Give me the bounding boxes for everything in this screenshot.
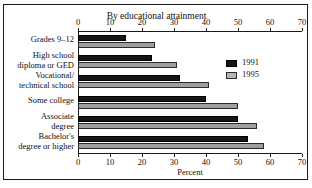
x-axis-tick-label: 70: [298, 157, 307, 167]
x-axis-tick-label: 10: [106, 17, 115, 27]
legend-label: 1995: [242, 69, 259, 79]
category-label: High school diploma or GED: [17, 51, 74, 70]
x-axis-tick-top: [238, 28, 239, 31]
category-label: Some college: [28, 96, 74, 106]
x-axis-tick-top: [302, 28, 303, 31]
x-axis-tick-label: 0: [76, 157, 80, 167]
x-axis-tick-top: [174, 28, 175, 31]
plot-area: Percent 001010202030304040505060607070: [78, 31, 302, 153]
x-axis-tick-label: 0: [76, 17, 80, 27]
x-axis-tick-label: 10: [106, 157, 115, 167]
bar-1995: [78, 82, 209, 88]
category-label: Associate degree: [41, 112, 74, 131]
bar-1995: [78, 103, 238, 109]
chart-title: By educational attainment: [4, 11, 309, 21]
legend-swatch-icon: [226, 72, 237, 79]
x-axis-label: Percent: [78, 167, 302, 177]
bar-1995: [78, 62, 177, 68]
bar-1995: [78, 123, 257, 129]
category-label: Bachelor's degree or higher: [18, 132, 74, 151]
x-axis-tick-top: [142, 28, 143, 31]
bar-1995: [78, 42, 155, 48]
bar-1991: [78, 35, 126, 41]
legend-item: 1995: [226, 70, 286, 82]
category-label: Grades 9–12: [31, 35, 74, 45]
bottom-axis-line: [78, 153, 302, 154]
x-axis-tick-label: 30: [170, 17, 179, 27]
chart-screenshot: By educational attainment Grades 9–12Hig…: [0, 0, 312, 188]
bar-1991: [78, 75, 180, 81]
chart-legend: 19911995: [226, 58, 286, 82]
x-axis-tick-label: 40: [202, 157, 211, 167]
x-axis-tick-top: [206, 28, 207, 31]
legend-label: 1991: [242, 57, 259, 67]
category-axis-labels: Grades 9–12High school diploma or GEDVoc…: [4, 31, 74, 153]
x-axis-tick-top: [110, 28, 111, 31]
bar-1991: [78, 55, 152, 61]
bar-1995: [78, 143, 264, 149]
x-axis-tick-top: [270, 28, 271, 31]
x-axis-tick-label: 20: [138, 17, 147, 27]
bottom-margin-band: [0, 182, 312, 188]
bar-1991: [78, 116, 238, 122]
x-axis-tick-label: 60: [266, 17, 275, 27]
legend-swatch-icon: [226, 60, 237, 67]
category-label: Vocational/ technical school: [19, 71, 74, 90]
bar-1991: [78, 136, 248, 142]
x-axis-tick-label: 30: [170, 157, 179, 167]
x-axis-tick-label: 50: [234, 157, 243, 167]
x-axis-tick-label: 40: [202, 17, 211, 27]
chart-frame: By educational attainment Grades 9–12Hig…: [3, 4, 308, 180]
x-axis-tick-label: 50: [234, 17, 243, 27]
x-axis-tick-label: 20: [138, 157, 147, 167]
top-axis-line: [78, 31, 302, 32]
bar-1991: [78, 96, 206, 102]
x-axis-tick-label: 60: [266, 157, 275, 167]
x-axis-tick-top: [78, 28, 79, 31]
x-axis-tick-label: 70: [298, 17, 307, 27]
